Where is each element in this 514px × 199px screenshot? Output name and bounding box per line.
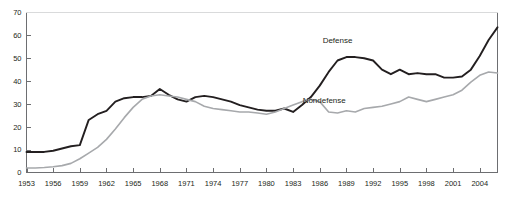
x-tick-label: 1956 [45, 179, 62, 188]
y-tick-label: 0 [17, 168, 21, 177]
line-chart: 010203040506070 195319561959196219651968… [0, 0, 514, 199]
series-label-defense: Defense [323, 36, 353, 45]
y-tick-label: 30 [13, 100, 21, 109]
x-tick-group: 1953195619591962196519681971197419771980… [18, 168, 488, 188]
x-tick-label: 1971 [178, 179, 195, 188]
figure-container: 010203040506070 195319561959196219651968… [0, 0, 514, 199]
x-tick-label: 1962 [98, 179, 115, 188]
y-tick-label: 10 [13, 145, 21, 154]
series-line-defense [27, 27, 498, 152]
x-tick-label: 1974 [205, 179, 222, 188]
x-tick-label: 1992 [365, 179, 382, 188]
x-tick-label: 1953 [18, 179, 35, 188]
x-tick-label: 1983 [285, 179, 302, 188]
series-group [27, 27, 498, 168]
x-tick-label: 1995 [391, 179, 408, 188]
y-tick-label: 70 [13, 8, 21, 17]
x-tick-label: 2004 [471, 179, 488, 188]
series-annotation-group: DefenseNondefense [303, 36, 353, 104]
y-tick-label: 20 [13, 123, 21, 132]
x-tick-label: 1968 [151, 179, 168, 188]
x-tick-label: 1965 [125, 179, 142, 188]
x-tick-label: 1989 [338, 179, 355, 188]
series-line-nondefense [27, 72, 498, 168]
x-tick-label: 1986 [311, 179, 328, 188]
x-tick-label: 1977 [231, 179, 248, 188]
x-tick-label: 1959 [71, 179, 88, 188]
x-tick-label: 1998 [418, 179, 435, 188]
y-tick-label: 60 [13, 31, 21, 40]
series-label-nondefense: Nondefense [303, 96, 347, 105]
y-tick-label: 50 [13, 54, 21, 63]
x-tick-label: 1980 [258, 179, 275, 188]
x-tick-label: 2001 [445, 179, 462, 188]
y-tick-label: 40 [13, 77, 21, 86]
